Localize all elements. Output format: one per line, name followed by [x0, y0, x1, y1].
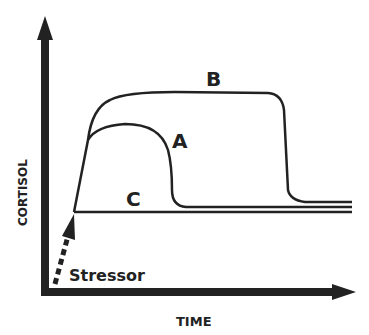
x-axis — [41, 284, 356, 300]
y-axis-label: CORTISOL — [16, 159, 30, 226]
y-axis — [37, 16, 53, 296]
x-axis-arrowhead-icon — [332, 284, 356, 300]
x-axis-label: TIME — [176, 314, 212, 329]
curve-b — [88, 92, 352, 202]
curve-a — [74, 124, 352, 212]
curve-a-label: A — [172, 129, 188, 153]
stressor-label: Stressor — [69, 266, 145, 285]
diagram-canvas: B A C Stressor TIME CORTISOL — [0, 0, 369, 335]
curve-c-label: C — [126, 187, 141, 211]
stressor-arrowhead-icon — [62, 214, 75, 240]
cortisol-response-diagram: B A C Stressor TIME CORTISOL — [0, 0, 369, 335]
y-axis-arrowhead-icon — [37, 16, 53, 40]
curve-b-label: B — [206, 67, 221, 91]
